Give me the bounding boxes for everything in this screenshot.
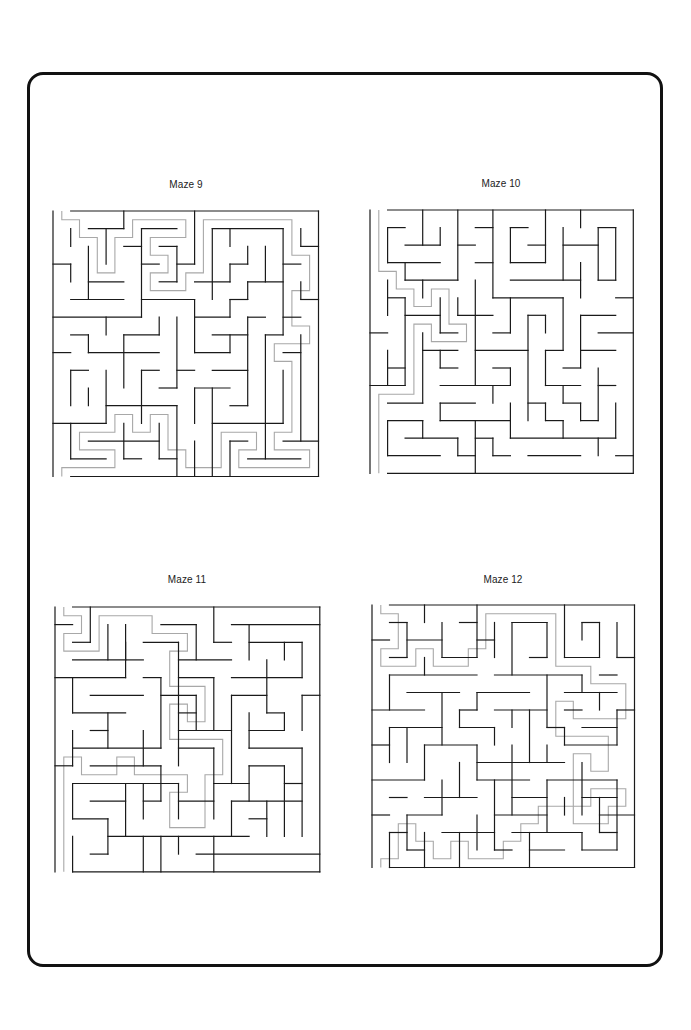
maze-9-title: Maze 9 (169, 179, 202, 190)
maze-11-title: Maze 11 (168, 574, 206, 585)
maze-11-grid[interactable] (53, 605, 322, 874)
maze-10-grid[interactable] (368, 208, 635, 475)
solution-path (381, 605, 626, 868)
solution-path (62, 211, 310, 477)
maze-12-title: Maze 12 (483, 574, 522, 585)
maze-12-grid[interactable] (370, 603, 637, 870)
maze-9-grid[interactable] (51, 209, 321, 479)
maze-10-title: Maze 10 (481, 178, 520, 189)
